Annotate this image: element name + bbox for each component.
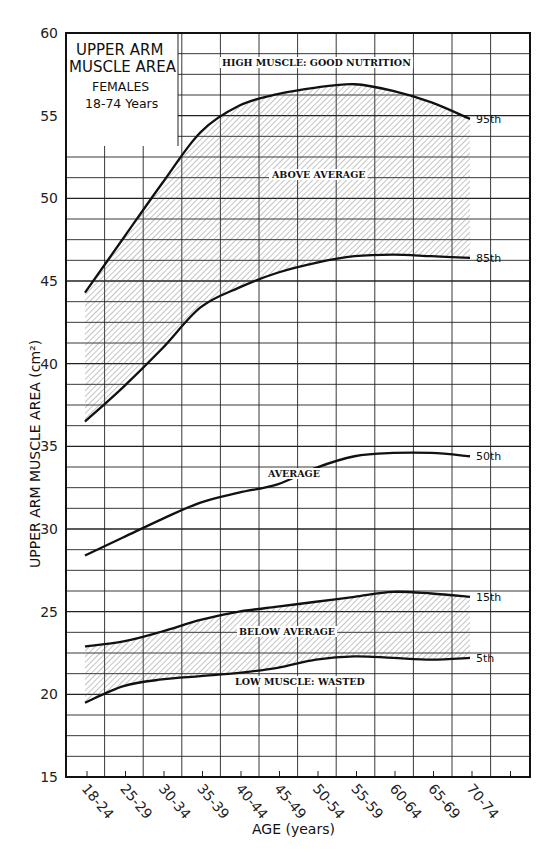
chart-subtitle-sex: FEMALES [92,79,149,94]
percentile-label: 5th [476,652,494,665]
x-tick-label: 18-24 [79,781,117,823]
x-tick-label: 65-69 [425,781,463,822]
x-tick-label: 30-34 [156,781,194,823]
x-tick-label: 25-29 [117,781,155,822]
y-tick-label: 20 [40,686,58,702]
y-tick-label: 60 [40,25,58,41]
y-axis-label: UPPER ARM MUSCLE AREA (cm²) [27,340,43,568]
percentile-label: 85th [476,252,501,265]
y-tick-label: 50 [40,190,58,206]
y-tick-label: 15 [40,769,58,785]
x-tick-label: 50-54 [310,781,348,823]
chart-title-line2: MUSCLE AREA [69,58,177,76]
chart-title-line1: UPPER ARM [76,41,163,59]
x-tick-label: 70-74 [464,781,502,823]
x-tick-label: 45-49 [271,781,309,822]
annotation-low-muscle: LOW MUSCLE: WASTED [235,676,365,687]
percentile-label: 15th [476,591,501,604]
y-tick-label: 45 [40,273,58,289]
muscle-area-chart: 95th85th50th15th5th 15202530354045505560… [0,0,557,866]
annotation-high-muscle: HIGH MUSCLE: GOOD NUTRITION [222,57,411,68]
x-tick-label: 60-64 [387,781,425,823]
chart-subtitle-age: 18-74 Years [85,96,158,111]
y-tick-label: 55 [40,108,58,124]
annotation-average: AVERAGE [267,468,320,479]
x-axis-label: AGE (years) [252,821,335,837]
percentile-label: 95th [476,113,501,126]
x-tick-label: 55-59 [348,781,386,822]
y-tick-label: 25 [40,604,58,620]
annotation-below-average: BELOW AVERAGE [239,626,335,637]
percentile-label: 50th [476,450,501,463]
x-tick-label: 40-44 [233,781,271,823]
x-tick-label: 35-39 [194,781,232,822]
x-axis-ticks: 18-2425-2930-3435-3940-4445-4950-5455-59… [79,771,511,822]
annotation-above-average: ABOVE AVERAGE [271,169,366,180]
